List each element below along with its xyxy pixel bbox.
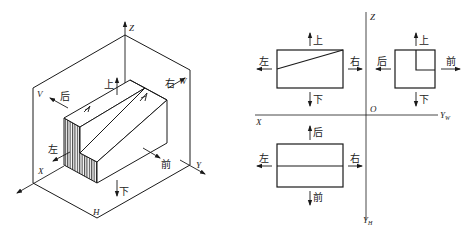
pictorial-view: Z X Y V W H 上 下 后 前 左 右: [17, 22, 205, 218]
v-plane-label: V: [37, 89, 44, 99]
front-view-left-label: 左: [259, 55, 269, 67]
side-view-front-label: 前: [446, 55, 456, 67]
z-axis-label: Z: [129, 23, 135, 33]
top-view-back-label: 后: [313, 127, 323, 138]
front-view-up-label: 上: [313, 35, 323, 46]
solid-block: [64, 80, 167, 183]
projection-diagram: Z X Y V W H 上 下 后 前 左 右 Z X O YW YH 上 下 …: [0, 0, 469, 235]
top-view-right-label: 右: [350, 152, 360, 164]
side-view-outline: [395, 50, 435, 88]
side-view-up-label: 上: [419, 35, 429, 46]
left-label: 左: [48, 143, 58, 155]
up-label: 上: [104, 79, 114, 90]
origin-label: O: [370, 104, 377, 114]
front-view: 上 下 左 右: [257, 33, 362, 106]
top-view-front-label: 前: [313, 191, 323, 203]
z-axis-label: Z: [370, 12, 376, 22]
right-label: 右: [165, 77, 175, 89]
front-view-slope-line: [277, 50, 343, 69]
x-axis-label: X: [37, 166, 44, 176]
top-view: 后 前 左 右: [257, 126, 362, 205]
back-label: 后: [60, 91, 70, 102]
side-view-down-label: 下: [419, 94, 429, 105]
front-label: 前: [161, 158, 171, 170]
orthographic-views: Z X O YW YH 上 下 左 右 上 下 后: [255, 12, 460, 226]
side-view: 上 下 后 前: [376, 33, 460, 106]
side-view-back-label: 后: [377, 56, 387, 67]
top-view-left-label: 左: [259, 152, 269, 164]
x-axis-label: X: [255, 117, 262, 127]
down-label: 下: [119, 186, 129, 197]
side-view-step-line: [416, 50, 435, 70]
yh-axis-label: YH: [363, 215, 373, 226]
front-view-outline: [277, 50, 343, 88]
yw-axis-label: YW: [440, 110, 451, 121]
y-axis-label: Y: [196, 160, 202, 170]
front-view-down-label: 下: [313, 94, 323, 105]
y-axis-arrow: [180, 160, 205, 174]
w-plane-label: W: [179, 76, 188, 86]
h-plane-label: H: [92, 207, 100, 217]
front-view-right-label: 右: [350, 55, 360, 67]
